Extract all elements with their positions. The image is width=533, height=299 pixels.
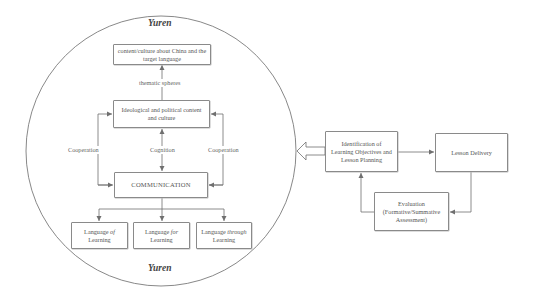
language-through-learning-box: Language through Learning xyxy=(196,222,252,249)
language-for-learning-text: Language for Learning xyxy=(145,228,178,244)
hollow-arrow xyxy=(297,142,325,160)
lesson-delivery-text: Lesson Delivery xyxy=(451,149,492,157)
evaluation-subtitle: (Formative/Summative Assessment) xyxy=(378,208,445,224)
evaluation-box: Evaluation (Formative/Summative Assessme… xyxy=(374,192,449,231)
communication-box: COMMUNICATION xyxy=(114,172,208,198)
content-culture-box: content/culture about China and the targ… xyxy=(113,44,211,65)
language-of-learning-box: Language of Learning xyxy=(71,222,128,249)
cooperation-right-label: Cooperation xyxy=(207,146,240,154)
language-of-learning-text: Language of Learning xyxy=(84,228,115,244)
language-for-learning-box: Language for Learning xyxy=(133,222,190,249)
cooperation-left-label: Cooperation xyxy=(67,146,100,154)
evaluation-title: Evaluation xyxy=(398,200,425,208)
identification-planning-box: Identification of Learning Objectives an… xyxy=(325,131,398,172)
identification-planning-text: Identification of Learning Objectives an… xyxy=(330,140,393,164)
communication-text: COMMUNICATION xyxy=(131,181,190,189)
ideological-political-text: Ideological and political content and cu… xyxy=(120,106,203,122)
content-culture-text: content/culture about China and the targ… xyxy=(114,47,210,63)
yuren-bottom-label: Yuren xyxy=(148,263,171,273)
cognition-label: Cognition xyxy=(149,146,176,154)
ideological-political-box: Ideological and political content and cu… xyxy=(113,100,210,128)
lesson-delivery-box: Lesson Delivery xyxy=(435,133,508,172)
language-through-learning-text: Language through Learning xyxy=(201,228,246,244)
thematic-spheres-label: thematic spheres xyxy=(138,79,181,87)
yuren-top-label: Yuren xyxy=(148,18,171,28)
